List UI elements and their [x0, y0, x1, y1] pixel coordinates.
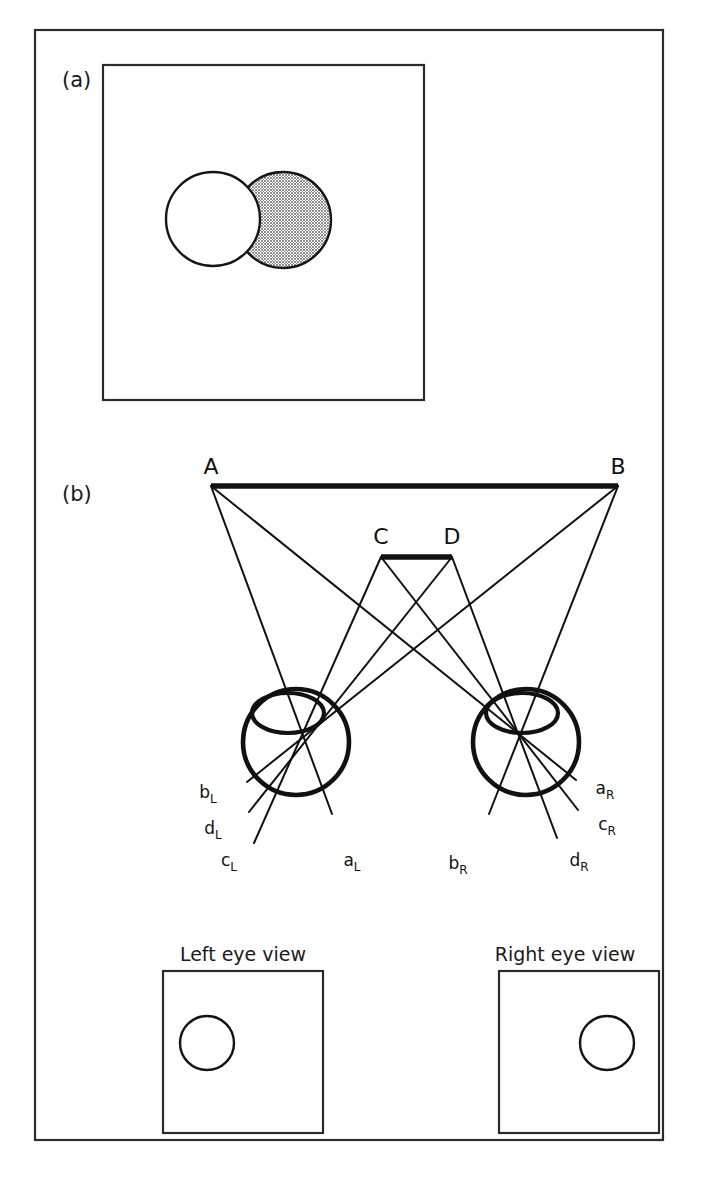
- point-label-a: A: [203, 454, 218, 479]
- panel-a: (a): [62, 65, 424, 400]
- right-eye-lens: [486, 693, 558, 733]
- front-white-disc: [166, 172, 260, 266]
- panel-a-label: (a): [62, 68, 91, 92]
- right-eye-view-box: [499, 971, 659, 1133]
- left-eye-view: Left eye view: [163, 943, 323, 1133]
- left-eye-lens: [252, 693, 324, 733]
- stereo-vision-figure: (a) (b): [0, 0, 712, 1181]
- retina-label-dL: dL: [204, 818, 222, 842]
- point-label-b: B: [610, 454, 625, 479]
- ray-c-to-right-retina: [381, 557, 578, 810]
- ray-d-to-left-retina: [249, 557, 452, 812]
- panel-b-label: (b): [62, 482, 92, 506]
- retina-label-aR: aR: [596, 778, 615, 802]
- left-eye-view-box: [163, 971, 323, 1133]
- right-eye-view-title: Right eye view: [495, 943, 636, 965]
- retina-label-aL: aL: [343, 850, 360, 874]
- point-label-d: D: [444, 524, 461, 549]
- ray-b-to-right-retina: [489, 486, 618, 814]
- retina-label-bR: bR: [448, 853, 467, 877]
- left-eye-view-title: Left eye view: [180, 943, 306, 965]
- right-eye-view: Right eye view: [495, 943, 659, 1133]
- retina-label-cR: cR: [598, 814, 616, 838]
- panel-b: (b) A: [62, 454, 659, 1133]
- retina-label-bL: bL: [199, 782, 217, 806]
- left-eye: bL dL cL aL: [199, 689, 361, 874]
- retina-label-cL: cL: [221, 850, 237, 874]
- point-label-c: C: [373, 524, 388, 549]
- figure-root: (a) (b): [0, 0, 712, 1181]
- right-eye: aR cR bR dR: [448, 689, 615, 877]
- ray-b-to-left-retina: [247, 486, 618, 782]
- retina-label-dR: dR: [569, 850, 588, 874]
